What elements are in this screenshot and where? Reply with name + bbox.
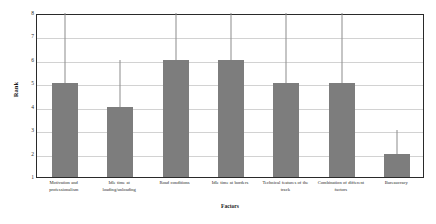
y-tick-label: 6 — [22, 58, 34, 64]
bar-chart: Rank 12345678 Motivation and professiona… — [0, 0, 436, 224]
bar — [52, 83, 78, 177]
y-tick-label: 8 — [22, 11, 34, 17]
bar — [107, 107, 133, 177]
y-tick-label: 4 — [22, 105, 34, 111]
x-tick-label: Idle time at borders — [202, 180, 257, 187]
y-tick-label: 7 — [22, 35, 34, 41]
y-tick-label: 1 — [22, 175, 34, 181]
x-tick-label: Technical features of the track — [258, 180, 313, 193]
x-tick-label: Road conditions — [147, 180, 202, 187]
bar — [384, 154, 410, 177]
bar-group — [314, 15, 369, 177]
y-tick-label: 5 — [22, 82, 34, 88]
y-tick-label: 2 — [22, 152, 34, 158]
x-tick-label: Bureaucracy — [369, 180, 424, 187]
plot-area — [36, 14, 424, 178]
x-tick-label: Motivation and professionalism — [36, 180, 91, 193]
y-axis-title: Rank — [9, 0, 23, 178]
bar — [163, 60, 189, 177]
bar-group — [203, 15, 258, 177]
bar-group — [37, 15, 92, 177]
y-axis-title-label: Rank — [13, 81, 20, 97]
bar — [273, 83, 299, 177]
bar-group — [259, 15, 314, 177]
x-tick-label: Idle time at loading/unloading — [91, 180, 146, 193]
bar-group — [92, 15, 147, 177]
y-axis-tick-labels: 12345678 — [22, 14, 34, 178]
bar — [329, 83, 355, 177]
bar-group — [148, 15, 203, 177]
x-axis-tick-labels: Motivation and professionalismIdle time … — [36, 180, 424, 200]
bar — [218, 60, 244, 177]
x-tick-label: Combination of different factors — [313, 180, 368, 193]
y-tick-label: 3 — [22, 128, 34, 134]
bars-layer — [37, 15, 423, 177]
bar-group — [370, 15, 425, 177]
x-axis-title: Factors — [36, 203, 424, 209]
